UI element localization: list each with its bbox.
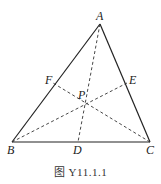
label-a: A [95,9,104,23]
label-f: F [44,73,53,87]
cevian-be [12,83,127,142]
label-c: C [146,143,155,157]
label-e: E [128,73,137,87]
side-ab [12,24,100,142]
side-ca [100,24,150,142]
label-d: D [72,143,82,157]
cevian-ad [78,24,100,142]
figure-caption: 图 Y11.1.1 [0,163,161,179]
triangle-diagram: A B C D E F P [0,0,161,184]
label-b: B [7,143,15,157]
label-p: P [77,88,86,102]
cevian-cf [53,83,150,142]
